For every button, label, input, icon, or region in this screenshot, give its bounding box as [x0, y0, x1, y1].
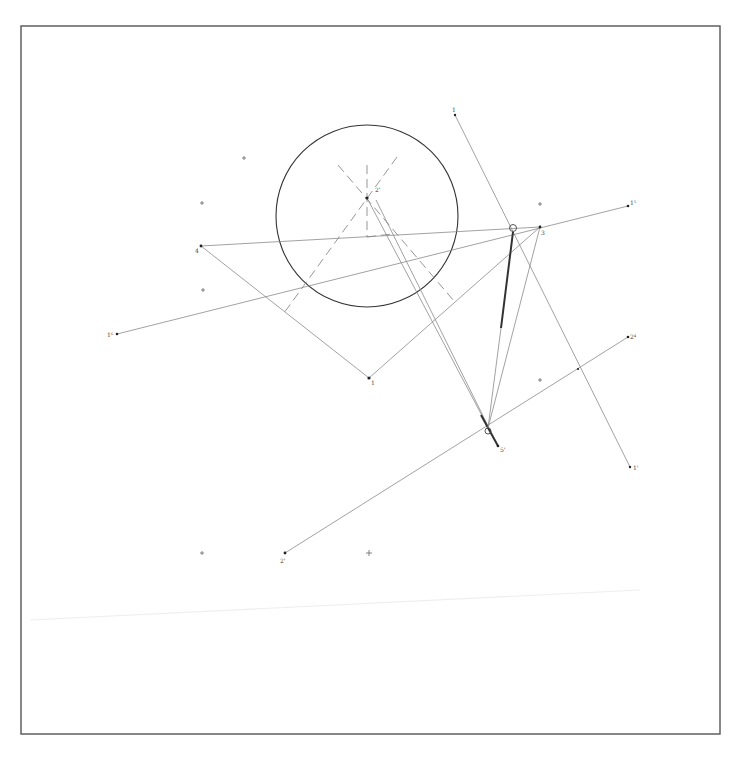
- construction-drawing: 2' 4 3 1 1⁵ 1⁶ 1 1' 2' 2⁴ 5': [0, 0, 729, 762]
- thick-segment: [501, 232, 513, 328]
- label-2-4: 2⁴: [630, 333, 637, 340]
- cross-markers: [200, 156, 542, 556]
- point-labels: 2' 4 3 1 1⁵ 1⁶ 1 1' 2' 2⁴ 5': [107, 106, 639, 564]
- label-1-5: 1⁵: [630, 199, 637, 206]
- labelled-points: [116, 114, 632, 555]
- label-5-prime: 5': [500, 446, 506, 453]
- triangle-4-3-1: [201, 227, 540, 378]
- label-4: 4: [195, 247, 199, 254]
- line-circle-to-5: [488, 328, 501, 428]
- line-2p-to-2-4: [285, 337, 628, 553]
- label-top: 1: [452, 106, 456, 113]
- label-3: 3: [541, 229, 545, 236]
- line-1-6-to-1-5: [117, 206, 628, 334]
- label-1: 1: [371, 379, 375, 386]
- line-3-to-5: [488, 227, 540, 428]
- faint-artifact-line: [30, 590, 640, 620]
- label-2-prime: 2': [280, 557, 286, 564]
- label-2-center: 2': [375, 186, 381, 193]
- dashed-construction-lines: [284, 157, 454, 313]
- label-1-6: 1⁶: [107, 331, 114, 338]
- label-bottom-right: 1': [633, 464, 639, 471]
- center-to-5-lines: [367, 198, 498, 446]
